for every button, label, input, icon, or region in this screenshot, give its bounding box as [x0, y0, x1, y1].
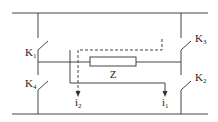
load-resistor-z	[90, 57, 136, 66]
h-bridge-circuit: K1 K4 K3 K2 Z i2 i1	[0, 0, 218, 122]
svg-text:i2: i2	[75, 96, 82, 110]
svg-text:K2: K2	[195, 71, 207, 85]
label-k4: K	[25, 77, 33, 89]
label-k2: K	[195, 71, 203, 83]
label-z: Z	[110, 68, 117, 80]
label-k3: K	[195, 32, 203, 44]
switch-k3	[181, 41, 191, 50]
svg-text:i1: i1	[162, 96, 169, 110]
switch-k2	[181, 81, 191, 90]
label-k1: K	[25, 46, 33, 58]
switch-k4	[38, 81, 48, 90]
svg-text:K1: K1	[25, 46, 37, 60]
switch-k1	[38, 41, 48, 50]
current-path-i1	[70, 50, 165, 93]
svg-text:K3: K3	[195, 32, 207, 46]
svg-text:K4: K4	[25, 77, 37, 91]
